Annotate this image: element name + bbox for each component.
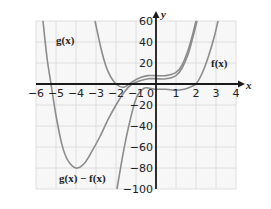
curve-label-g-minus-f: g(x) − f(x) xyxy=(59,172,106,185)
x-tick-label: 1 xyxy=(173,87,180,100)
curve-label-f: f(x) xyxy=(211,57,228,70)
y-tick-label: −100 xyxy=(123,183,153,196)
y-tick-label: 40 xyxy=(139,36,153,49)
y-tick-label: −40 xyxy=(130,120,153,133)
x-tick-label: −4 xyxy=(68,87,84,100)
y-tick-label: −60 xyxy=(130,141,153,154)
y-tick-label: 60 xyxy=(139,15,153,28)
x-tick-label: 3 xyxy=(213,87,220,100)
y-axis-arrow-icon xyxy=(153,11,160,18)
x-tick-label: 4 xyxy=(233,87,240,100)
x-axis-label: x xyxy=(245,79,252,91)
y-tick-label: 20 xyxy=(139,57,153,70)
curve-label-g: g(x) xyxy=(56,34,75,47)
x-tick-label: −5 xyxy=(48,87,64,100)
y-axis-label: y xyxy=(159,8,166,20)
y-tick-label: −20 xyxy=(130,99,153,112)
x-tick-label: 2 xyxy=(193,87,200,100)
y-tick-label: −80 xyxy=(130,162,153,175)
x-tick-label: −3 xyxy=(88,87,104,100)
x-tick-label: −6 xyxy=(28,87,44,100)
function-graph: −6−5−4−3−2−101234604020−20−40−60−80−100 … xyxy=(0,0,271,209)
x-tick-label: −2 xyxy=(108,87,124,100)
